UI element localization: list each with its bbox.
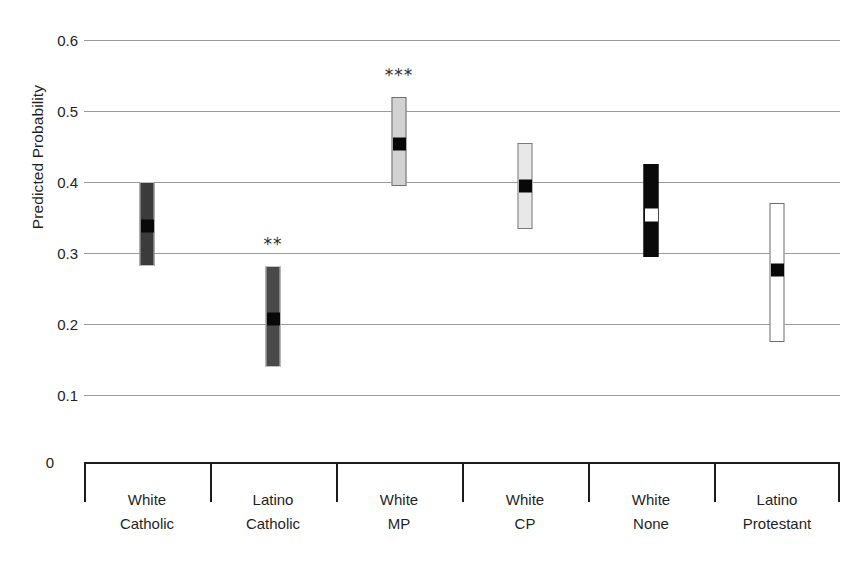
y-axis-tick-label: 0.6: [24, 32, 78, 49]
x-axis-category-label: WhiteCP: [506, 488, 544, 536]
x-axis-separator: [84, 462, 86, 502]
gridline: [84, 253, 840, 254]
x-axis-category-line: MP: [380, 512, 418, 536]
point-estimate-marker: [141, 219, 154, 232]
predicted-probability-chart: Predicted Probability 0.10.20.30.40.50.6…: [0, 0, 854, 568]
confidence-interval-bar: [392, 97, 407, 186]
confidence-interval-bar: [644, 164, 659, 256]
point-estimate-marker: [393, 137, 406, 150]
point-estimate-marker: [267, 313, 280, 326]
x-axis-category-label: WhiteNone: [632, 488, 670, 536]
x-axis-separator: [210, 462, 212, 502]
x-axis-separator: [714, 462, 716, 502]
gridline: [84, 40, 840, 41]
y-axis-tick-label: 0.5: [24, 103, 78, 120]
y-axis-tick-label: 0.1: [24, 387, 78, 404]
x-axis-category-line: White: [380, 488, 418, 512]
y-axis-tick-label: 0.2: [24, 316, 78, 333]
x-axis-category-line: Latino: [246, 488, 300, 512]
confidence-interval-bar: [770, 203, 785, 342]
point-estimate-marker: [519, 179, 532, 192]
x-axis-separator: [462, 462, 464, 502]
x-axis-separator: [588, 462, 590, 502]
confidence-interval-bar: [266, 266, 281, 367]
confidence-interval-bar: [140, 182, 155, 266]
y-axis-tick-labels: 0.10.20.30.40.50.6: [0, 0, 78, 568]
x-axis-category-line: Catholic: [120, 512, 174, 536]
point-estimate-marker: [771, 264, 784, 277]
x-axis-category-label: LatinoCatholic: [246, 488, 300, 536]
x-axis: WhiteCatholicLatinoCatholicWhiteMPWhiteC…: [84, 462, 840, 568]
gridline: [84, 324, 840, 325]
x-axis-category-line: Latino: [743, 488, 811, 512]
plot-area: *****: [84, 0, 840, 462]
x-axis-separator: [838, 462, 840, 502]
x-axis-category-line: CP: [506, 512, 544, 536]
x-axis-category-label: WhiteCatholic: [120, 488, 174, 536]
x-axis-category-line: Protestant: [743, 512, 811, 536]
y-axis-zero-label: 0: [46, 454, 54, 471]
gridline: [84, 395, 840, 396]
x-axis-category-label: LatinoProtestant: [743, 488, 811, 536]
y-axis-tick-label: 0.3: [24, 245, 78, 262]
x-axis-category-line: White: [120, 488, 174, 512]
significance-annotation: **: [264, 234, 283, 254]
y-axis-tick-label: 0.4: [24, 174, 78, 191]
confidence-interval-bar: [518, 143, 533, 229]
point-estimate-marker: [645, 208, 658, 221]
significance-annotation: ***: [385, 65, 414, 85]
x-axis-separator: [336, 462, 338, 502]
gridline: [84, 182, 840, 183]
x-axis-category-line: None: [632, 512, 670, 536]
x-axis-category-line: White: [506, 488, 544, 512]
x-axis-category-line: White: [632, 488, 670, 512]
x-axis-category-label: WhiteMP: [380, 488, 418, 536]
gridline: [84, 111, 840, 112]
x-axis-category-line: Catholic: [246, 512, 300, 536]
